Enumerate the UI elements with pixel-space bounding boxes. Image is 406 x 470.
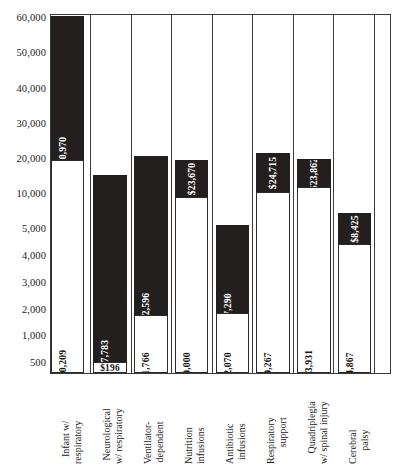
slot-divider [171, 15, 172, 373]
x-axis-label-line: palsy [359, 430, 371, 464]
y-tick-label: 20,000 [17, 154, 46, 164]
bar-segment-upper: $24,715 [256, 153, 290, 193]
x-axis-label-line: Neurological [101, 408, 113, 464]
x-axis-label-line: infusions [195, 427, 207, 464]
y-tick-label: 40,000 [17, 84, 46, 94]
y-tick-label: 3,000 [22, 278, 46, 288]
bar-segment-lower: $196 [93, 362, 127, 373]
y-tick-label: 30,000 [17, 119, 46, 129]
y-tick-label: 2,000 [22, 305, 46, 315]
x-axis-label-line: Respiratory [265, 417, 277, 464]
x-axis-label-line: support [277, 417, 289, 464]
y-axis: 60,000 50,000 40,000 30,000 20,000 10,00… [0, 0, 50, 380]
bar-value-label: $60,970 [58, 137, 68, 160]
slot-divider [252, 15, 253, 373]
x-axis-label-line: Infant w/ [60, 421, 72, 464]
x-axis-label-nutrition-infusions: Nutrition infusions [183, 427, 206, 464]
x-axis-label-line: w/ respiratory [113, 408, 125, 464]
bar-segment-lower: $2,070 [216, 313, 249, 373]
slot-divider [374, 15, 375, 373]
bar-group: $60,970 $20,209 [51, 16, 84, 373]
bar-value-label: $20,209 [58, 350, 68, 373]
x-axis-label-ventilator-dependent: Ventilator- dependent [142, 421, 165, 464]
y-tick-label: 4,000 [22, 251, 46, 261]
bar-group: $8,425 $4,867 [338, 213, 371, 373]
bar-value-label: $8,425 [350, 215, 360, 243]
bar-group: $24,715 $9,267 [256, 153, 290, 373]
x-axis-label-antibiotic-infusions: Antibiotic infusions [224, 423, 247, 464]
bar-group: $23,670 $9,000 [175, 160, 208, 373]
y-tick-label: 1,000 [22, 331, 46, 341]
x-axis-label-quadriplegia-spinal-injury: Quadriplegia w/ spinal injury [306, 401, 329, 464]
y-tick-label: 50,000 [17, 48, 46, 58]
bar-value-label: $196 [100, 363, 120, 373]
x-axis-label-line: respiratory [72, 421, 84, 464]
bar-value-label: $9,267 [263, 352, 273, 373]
bar-value-label: $7,290 [223, 293, 233, 314]
bar-segment-lower: $13,931 [297, 187, 331, 373]
x-axis-labels: Infant w/ respiratory Neurological w/ re… [50, 378, 391, 470]
x-axis-label-line: w/ spinal injury [318, 401, 330, 464]
x-axis-label-respiratory-support: Respiratory support [265, 417, 288, 464]
bar-value-label: $9,000 [182, 352, 192, 373]
bar-group: $17,783 $196 [93, 175, 127, 373]
bar-segment-lower: $9,267 [256, 192, 290, 373]
y-tick-label: 5,000 [22, 224, 46, 234]
bar-segment-upper: $7,290 [216, 225, 249, 314]
x-axis-label-line: Quadriplegia [306, 401, 318, 464]
bar-value-label: $24,715 [268, 157, 278, 190]
bar-segment-lower: $4,867 [338, 244, 371, 373]
plot-area: $60,970 $20,209 $17,783 $196 $22,596 $1,… [50, 14, 391, 374]
x-axis-label-neurological-respiratory: Neurological w/ respiratory [101, 408, 124, 464]
bar-segment-upper: $22,596 [134, 156, 168, 316]
x-axis-label-line: Cerebral [347, 430, 359, 464]
bar-value-label: $1,766 [141, 352, 151, 373]
y-tick-label: 500 [30, 358, 46, 368]
bar-segment-upper: $8,425 [338, 213, 371, 245]
slot-divider [90, 15, 91, 373]
bar-segment-upper: $17,783 [93, 175, 127, 363]
bar-value-label: $2,070 [223, 352, 233, 373]
bar-value-label: $23,670 [187, 163, 197, 196]
x-axis-label-infant-respiratory: Infant w/ respiratory [60, 421, 83, 464]
slot-divider [293, 15, 294, 373]
bar-segment-upper: $60,970 [51, 16, 84, 160]
slot-divider [131, 15, 132, 373]
x-axis-label-line: dependent [154, 421, 166, 464]
x-axis-label-line: Antibiotic [224, 423, 236, 464]
bar-group: $7,290 $2,070 [216, 225, 249, 373]
bar-segment-upper: $23,862 [297, 159, 331, 188]
slot-divider [333, 15, 334, 373]
bar-group: $22,596 $1,766 [134, 156, 168, 373]
bar-segment-upper: $23,670 [175, 160, 208, 198]
bar-value-label: $4,867 [345, 352, 355, 373]
y-tick-label: 10,000 [17, 189, 46, 199]
y-tick-label: 60,000 [17, 13, 46, 23]
x-axis-label-cerebral-palsy: Cerebral palsy [347, 430, 370, 464]
bar-value-label: $23,862 [309, 159, 319, 188]
x-axis-label-line: Nutrition [183, 427, 195, 464]
x-axis-label-line: infusions [236, 423, 248, 464]
bar-value-label: $17,783 [100, 340, 110, 363]
bar-segment-lower: $20,209 [51, 160, 84, 373]
bar-group: $23,862 $13,931 [297, 159, 331, 373]
bar-value-label: $22,596 [141, 293, 151, 316]
bar-chart: 60,000 50,000 40,000 30,000 20,000 10,00… [0, 0, 406, 470]
slot-divider [212, 15, 213, 373]
x-axis-label-line: Ventilator- [142, 421, 154, 464]
bar-segment-lower: $1,766 [134, 315, 168, 373]
bar-value-label: $13,931 [304, 350, 314, 373]
bar-segment-lower: $9,000 [175, 197, 208, 373]
